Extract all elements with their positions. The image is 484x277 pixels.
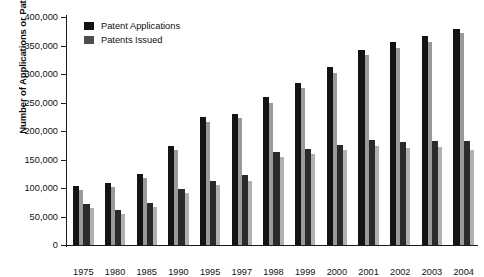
bar-patents-issued-side: [470, 150, 474, 245]
bar-patents-issued-side: [343, 150, 347, 245]
x-axis-label: 2001: [358, 267, 378, 277]
y-axis-tick-label: 0: [53, 240, 58, 250]
bar-patents-issued-side: [438, 147, 442, 245]
y-axis-tick: [61, 131, 66, 132]
x-axis-label: 1990: [168, 267, 188, 277]
y-axis-tick: [61, 46, 66, 47]
x-axis-label: 1995: [200, 267, 220, 277]
x-axis-label: 1999: [295, 267, 315, 277]
x-axis-label: 2000: [327, 267, 347, 277]
y-axis-tick-label: 50,000: [30, 212, 58, 222]
bar-patents-issued-side: [406, 148, 410, 245]
bar-patents-issued-side: [216, 185, 220, 245]
x-axis-label: 1997: [232, 267, 252, 277]
bar-patents-issued-side: [280, 157, 284, 245]
bar-group: [390, 17, 410, 245]
bar-patents-issued-side: [153, 207, 157, 245]
bar-group: [263, 17, 283, 245]
bar-patents-issued-side: [375, 146, 379, 245]
bar-patents-issued-side: [185, 193, 189, 245]
x-axis-line: [66, 245, 478, 246]
bar-patents-issued-side: [90, 208, 94, 245]
y-axis-tick: [61, 245, 66, 246]
y-axis-tick: [61, 103, 66, 104]
y-axis-tick-label: 300,000: [24, 69, 58, 79]
y-axis-tick-label: 150,000: [24, 155, 58, 165]
y-axis-tick-label: 350,000: [24, 41, 58, 51]
x-axis-label: 2002: [390, 267, 410, 277]
y-axis-tick: [61, 188, 66, 189]
x-axis-label: 1985: [136, 267, 156, 277]
bar-group: [295, 17, 315, 245]
x-axis-label: 1998: [263, 267, 283, 277]
x-axis-label: 1980: [105, 267, 125, 277]
y-axis-tick-label: 400,000: [24, 12, 58, 22]
bar-group: [422, 17, 442, 245]
y-axis-tick: [61, 74, 66, 75]
x-axis-label: 2003: [422, 267, 442, 277]
y-axis-tick-label: 200,000: [24, 126, 58, 136]
x-axis-label: 2004: [453, 267, 473, 277]
bar-patents-issued-side: [248, 181, 252, 245]
bar-group: [200, 17, 220, 245]
bar-group: [137, 17, 157, 245]
bar-group: [168, 17, 188, 245]
bar-patents-issued-side: [311, 154, 315, 245]
bar-group: [232, 17, 252, 245]
y-axis-tick-label: 250,000: [24, 98, 58, 108]
bar-group: [73, 17, 93, 245]
x-axis-label: 1975: [73, 267, 93, 277]
y-axis-tick-label: 100,000: [24, 183, 58, 193]
bar-patents-issued-side: [121, 214, 125, 245]
y-axis-tick: [61, 17, 66, 18]
bar-group: [327, 17, 347, 245]
y-axis-tick: [61, 160, 66, 161]
bar-group: [358, 17, 378, 245]
bar-group: [453, 17, 473, 245]
plot-area: 050,000100,000150,000200,000250,000300,0…: [66, 17, 478, 245]
y-axis-tick: [61, 217, 66, 218]
bar-group: [105, 17, 125, 245]
